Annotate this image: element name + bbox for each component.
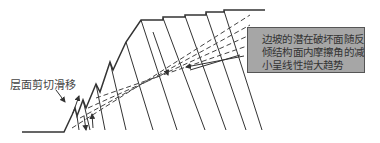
arrow-down-icon: [153, 32, 168, 75]
arrow-left-icon: [186, 56, 244, 67]
potential-failure-surfaces: [72, 15, 250, 128]
arrow-small-down-icon: [84, 116, 86, 130]
arrow-small-up-icon: [92, 114, 93, 128]
note-line: 小呈线性增大趋势: [262, 59, 360, 72]
note-box: 边坡的潜在破坏面随反 倾结构面内摩擦角的减 小呈线性增大趋势: [247, 27, 365, 73]
note-line: 边坡的潜在破坏面随反: [262, 33, 360, 46]
leader-line: [190, 55, 240, 70]
shear-slip-label: 层面剪切滑移: [10, 76, 76, 92]
structural-planes: [77, 11, 262, 130]
note-line: 倾结构面内摩擦角的减: [262, 46, 360, 59]
